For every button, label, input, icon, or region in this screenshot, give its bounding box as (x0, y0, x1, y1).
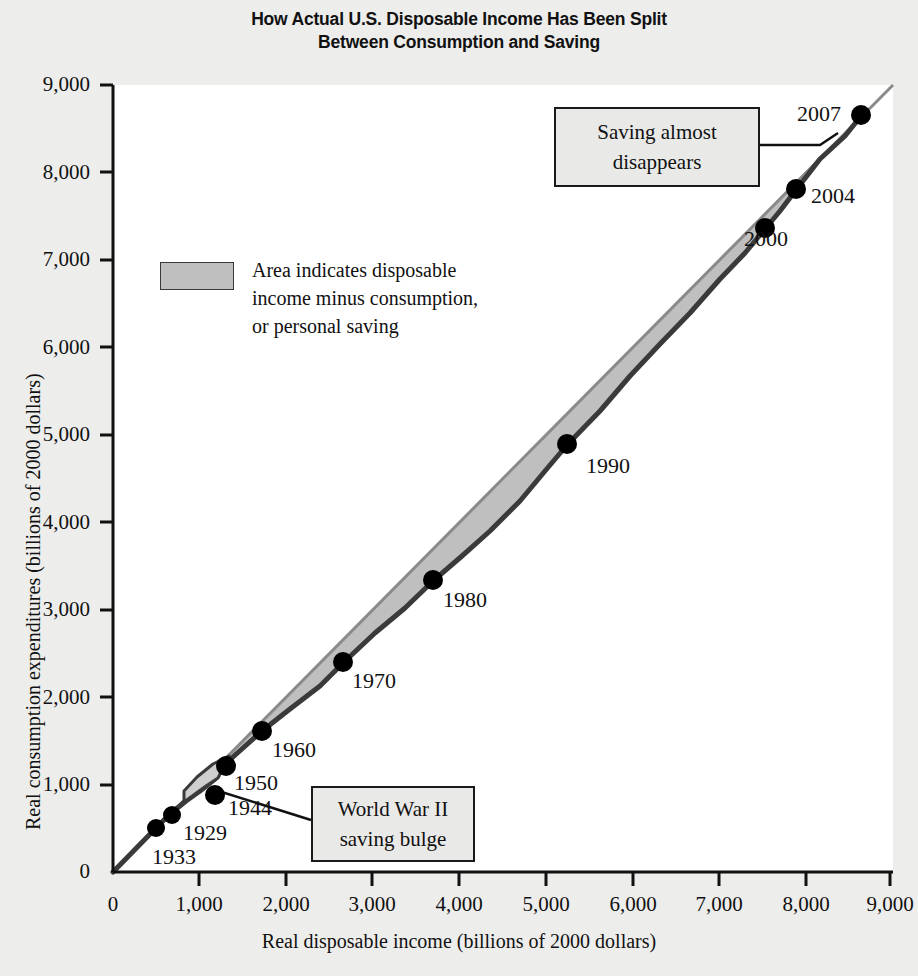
y-tick-label-8000: 8,000 (4, 162, 90, 183)
data-point-1970 (333, 652, 353, 672)
legend-label-line-2: income minus consumption, (252, 284, 502, 312)
y-tick-label-9000: 9,000 (4, 74, 90, 95)
annotation-wwii-saving-bulge: World War II saving bulge (311, 786, 475, 862)
income-45-degree-line (113, 85, 893, 872)
data-point-1933 (147, 819, 165, 837)
data-label-2007: 2007 (797, 103, 841, 125)
data-label-1970: 1970 (352, 670, 396, 692)
data-label-1990: 1990 (586, 455, 630, 477)
data-label-1960: 1960 (272, 739, 316, 761)
data-label-1950: 1950 (234, 772, 278, 794)
legend-label-line-3: or personal saving (252, 312, 502, 340)
data-point-1980 (423, 570, 443, 590)
legend-label-saving-area: Area indicates disposable income minus c… (252, 256, 502, 340)
y-axis-ticks (100, 85, 113, 785)
y-tick-label-4000: 4,000 (4, 512, 90, 533)
annotation-wwii-line-1: World War II (338, 794, 449, 824)
legend-swatch-saving-area (160, 262, 234, 290)
saving-callout-leader-line (756, 133, 838, 145)
y-tick-label-1000: 1,000 (4, 774, 90, 795)
x-axis-ticks (199, 872, 890, 886)
y-tick-label-6000: 6,000 (4, 337, 90, 358)
legend-label-line-1: Area indicates disposable (252, 256, 502, 284)
data-label-1929: 1929 (183, 822, 227, 844)
y-axis-title: Real consumption expenditures (billions … (22, 373, 45, 830)
annotation-saving-line-2: disappears (597, 147, 717, 177)
y-tick-label-5000: 5,000 (4, 424, 90, 445)
y-tick-label-7000: 7,000 (4, 249, 90, 270)
data-label-1944: 1944 (228, 797, 272, 819)
data-label-1933: 1933 (152, 846, 196, 868)
data-point-2004 (786, 179, 806, 199)
data-label-2000: 2000 (744, 228, 788, 250)
data-point-1990 (557, 434, 577, 454)
data-label-2004: 2004 (811, 185, 855, 207)
data-label-1980: 1980 (443, 589, 487, 611)
chart-root: How Actual U.S. Disposable Income Has Be… (0, 0, 918, 976)
annotation-saving-almost-disappears: Saving almost disappears (554, 107, 760, 187)
data-point-2007 (851, 105, 871, 125)
y-tick-label-3000: 3,000 (4, 599, 90, 620)
y-tick-label-2000: 2,000 (4, 687, 90, 708)
annotation-wwii-line-2: saving bulge (338, 824, 449, 854)
data-point-1950 (216, 756, 236, 776)
data-point-1929 (163, 806, 181, 824)
x-axis-title: Real disposable income (billions of 2000… (0, 930, 918, 953)
y-tick-label-0: 0 (4, 861, 90, 882)
data-point-1960 (252, 721, 272, 741)
annotation-saving-line-1: Saving almost (597, 117, 717, 147)
data-point-1944 (205, 785, 225, 805)
x-tick-label-9000: 9,000 (835, 894, 918, 915)
